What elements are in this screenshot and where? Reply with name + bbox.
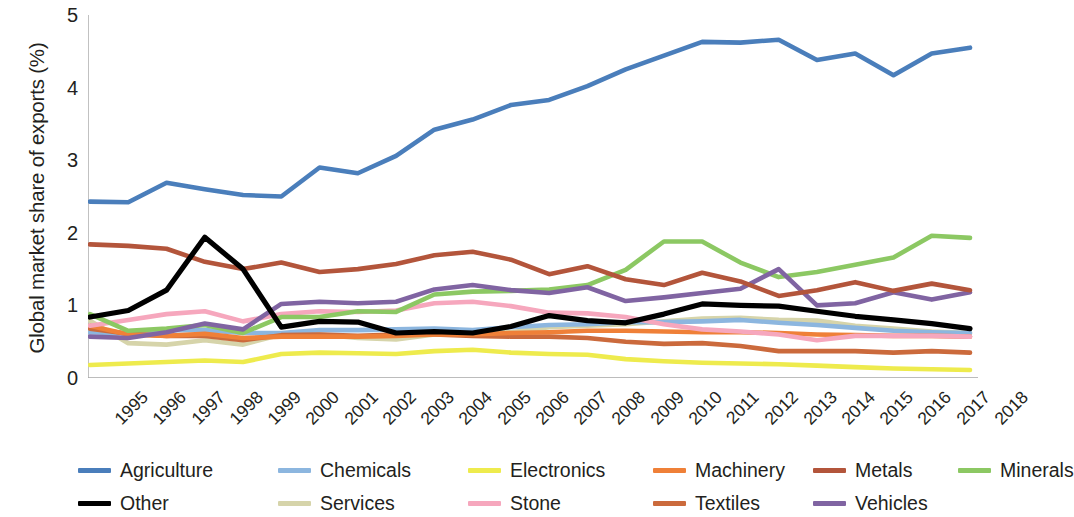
legend-label: Stone xyxy=(510,494,561,514)
plot-area xyxy=(88,15,978,378)
legend-item-chemicals[interactable]: Chemicals xyxy=(278,455,411,486)
x-tick-label: 2015 xyxy=(876,387,918,429)
series-line-agriculture xyxy=(90,40,970,203)
x-tick-label: 2017 xyxy=(952,387,994,429)
legend-item-electronics[interactable]: Electronics xyxy=(468,455,605,486)
legend-swatch-electronics-icon xyxy=(468,468,501,473)
x-tick-label: 2012 xyxy=(761,387,803,429)
legend-label: Minerals xyxy=(1000,461,1074,481)
legend-label: Chemicals xyxy=(320,461,411,481)
legend-label: Machinery xyxy=(695,461,785,481)
x-tick-label: 2005 xyxy=(493,387,535,429)
legend-item-services[interactable]: Services xyxy=(278,488,395,517)
x-tick-label: 2001 xyxy=(340,387,382,429)
legend-label: Agriculture xyxy=(120,461,213,481)
x-tick-label: 2000 xyxy=(302,387,344,429)
x-tick-label: 2002 xyxy=(378,387,420,429)
x-tick-label: 2008 xyxy=(608,387,650,429)
legend-item-other[interactable]: Other xyxy=(78,488,169,517)
legend-item-metals[interactable]: Metals xyxy=(813,455,912,486)
x-tick-label: 1999 xyxy=(263,387,305,429)
legend-swatch-stone-icon xyxy=(468,501,501,506)
x-tick-label: 2010 xyxy=(684,387,726,429)
legend-label: Textiles xyxy=(695,494,760,514)
x-tick-label: 2014 xyxy=(837,387,879,429)
legend-item-vehicles[interactable]: Vehicles xyxy=(813,488,928,517)
legend-swatch-textiles-icon xyxy=(653,501,686,506)
x-tick-label: 1996 xyxy=(149,387,191,429)
x-tick-label: 2004 xyxy=(455,387,497,429)
x-tick-label: 1998 xyxy=(225,387,267,429)
x-tick-label: 2006 xyxy=(531,387,573,429)
series-canvas xyxy=(88,15,978,378)
legend-swatch-chemicals-icon xyxy=(278,468,311,473)
legend-label: Other xyxy=(120,494,169,514)
x-tick-label: 2003 xyxy=(416,387,458,429)
legend-item-agriculture[interactable]: Agriculture xyxy=(78,455,213,486)
legend-swatch-vehicles-icon xyxy=(813,501,846,506)
x-tick-label: 1997 xyxy=(187,387,229,429)
x-tick-label: 2011 xyxy=(722,387,763,428)
legend-swatch-machinery-icon xyxy=(653,468,686,473)
legend-item-machinery[interactable]: Machinery xyxy=(653,455,785,486)
legend-swatch-services-icon xyxy=(278,501,311,506)
x-tick-label: 2009 xyxy=(646,387,688,429)
legend-swatch-agriculture-icon xyxy=(78,468,111,473)
legend-swatch-minerals-icon xyxy=(958,468,991,473)
legend-swatch-other-icon xyxy=(78,501,111,506)
legend-label: Vehicles xyxy=(855,494,928,514)
x-tick-label: 2018 xyxy=(990,387,1032,429)
legend-label: Electronics xyxy=(510,461,605,481)
legend-swatch-metals-icon xyxy=(813,468,846,473)
x-tick-label: 2013 xyxy=(799,387,841,429)
chart-legend: AgricultureChemicalsElectronicsMachinery… xyxy=(78,455,993,517)
legend-label: Services xyxy=(320,494,395,514)
legend-item-minerals[interactable]: Minerals xyxy=(958,455,1074,486)
legend-label: Metals xyxy=(855,461,912,481)
legend-item-stone[interactable]: Stone xyxy=(468,488,561,517)
x-tick-label: 2016 xyxy=(914,387,956,429)
x-tick-label: 1995 xyxy=(110,387,152,429)
legend-item-textiles[interactable]: Textiles xyxy=(653,488,760,517)
x-tick-label: 2007 xyxy=(570,387,612,429)
